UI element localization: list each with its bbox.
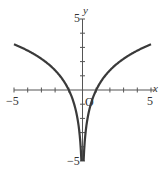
chart-plot xyxy=(0,0,166,170)
y-max-label: 5 xyxy=(74,12,80,24)
curve-left-branch xyxy=(14,44,81,161)
x-axis-label: x xyxy=(153,83,158,94)
x-min-label: −5 xyxy=(6,95,19,107)
y-axis-label: y xyxy=(83,5,88,16)
origin-label: O xyxy=(85,96,94,108)
x-max-label: 5 xyxy=(147,95,153,107)
y-min-label: −5 xyxy=(67,155,80,167)
